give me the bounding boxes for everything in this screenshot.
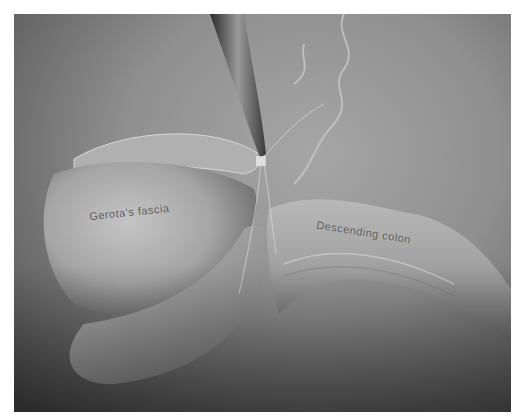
vessels	[294, 14, 349, 184]
surgical-instrument	[210, 14, 266, 158]
surgical-illustration: Gerota's fascia Descending colon	[14, 14, 511, 412]
